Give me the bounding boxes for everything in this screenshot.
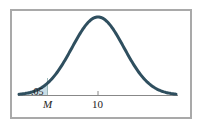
mean-label: 10	[92, 99, 103, 110]
tail-area-label: .05	[31, 87, 44, 97]
critical-value-label: M	[43, 99, 52, 110]
density-curve	[19, 17, 176, 94]
